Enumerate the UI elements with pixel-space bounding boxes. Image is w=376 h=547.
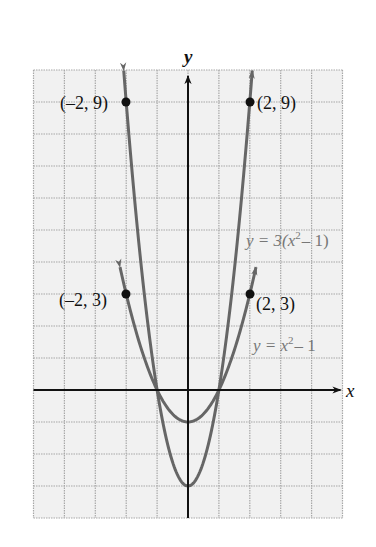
label-point-2-9: (2, 9) [257, 93, 296, 114]
label-point-2-3: (2, 3) [256, 294, 295, 315]
equation-label-x2-minus-1: y = x2– 1 [251, 334, 316, 355]
eq1-part-a: y = 3(x [244, 231, 296, 250]
eq2-part-b: – 1 [294, 336, 316, 355]
point-neg2-3 [122, 290, 131, 299]
point-neg2-9 [122, 98, 131, 107]
label-point-neg2-3: (–2, 3) [59, 290, 107, 311]
point-2-3 [246, 290, 255, 299]
y-axis-label: y [182, 46, 193, 67]
x-axis-label: x [345, 380, 355, 401]
eq1-part-b: – 1) [301, 231, 329, 250]
eq2-part-a: y = x [251, 336, 289, 355]
equation-label-3-x2-minus-1: y = 3(x2– 1) [244, 229, 329, 250]
graph: y x (–2, 9) (2, 9) (–2, 3) (2, 3) y = 3(… [0, 0, 376, 547]
point-2-9 [246, 98, 255, 107]
eq2-superscript: 2 [288, 334, 294, 346]
eq1-superscript: 2 [295, 229, 301, 241]
label-point-neg2-9: (–2, 9) [60, 93, 108, 114]
